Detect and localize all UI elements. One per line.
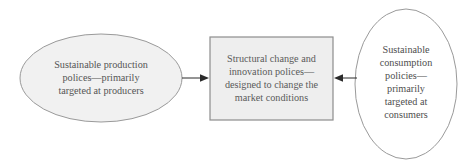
center-box-line-3: designed to change the bbox=[225, 79, 319, 90]
right-ellipse-line-1: Sustainable bbox=[383, 44, 430, 55]
right-ellipse-line-2: consumption bbox=[380, 57, 433, 68]
left-ellipse-line-2: polices—primarily bbox=[63, 72, 141, 83]
center-box-line-1: Structural change and bbox=[227, 53, 316, 64]
arrow-right-to-box-head bbox=[334, 74, 343, 81]
center-box-line-2: innovation polices— bbox=[229, 66, 315, 77]
arrow-left-to-box-head bbox=[200, 74, 209, 81]
policy-flow-diagram: Sustainable production polices—primarily… bbox=[0, 0, 466, 167]
left-ellipse-line-1: Sustainable production bbox=[54, 59, 148, 70]
right-ellipse-line-6: consumers bbox=[384, 109, 428, 120]
diagram-canvas: Sustainable production polices—primarily… bbox=[0, 0, 466, 167]
left-ellipse-line-3: targeted at producers bbox=[58, 85, 143, 96]
right-ellipse-line-5: targeted at bbox=[385, 96, 428, 107]
right-ellipse-line-3: policies— bbox=[385, 70, 428, 81]
node-left-ellipse[interactable]: Sustainable production polices—primarily… bbox=[20, 34, 182, 122]
center-box-line-4: market conditions bbox=[235, 92, 308, 103]
node-center-box[interactable]: Structural change and innovation polices… bbox=[210, 37, 333, 120]
arrow-left-to-box bbox=[182, 74, 209, 81]
node-right-ellipse[interactable]: Sustainable consumption policies— primar… bbox=[355, 9, 457, 159]
right-ellipse-line-4: primarily bbox=[387, 83, 426, 94]
arrow-right-to-box bbox=[334, 74, 357, 81]
